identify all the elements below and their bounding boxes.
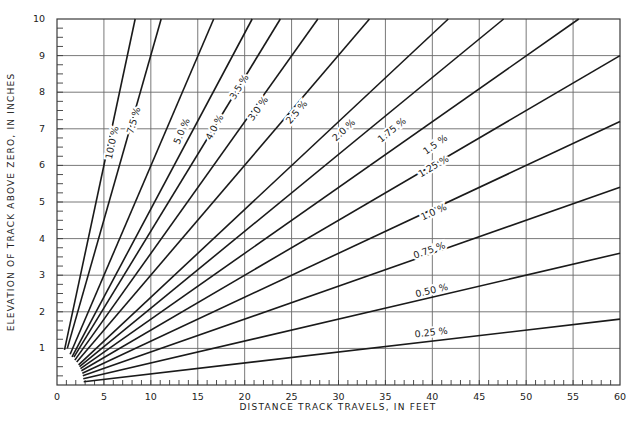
axis-ticks (57, 28, 611, 385)
y-tick-label: 2 (39, 306, 45, 317)
grade-line-label: 0.25 % (414, 325, 448, 340)
x-tick-label: 55 (567, 391, 579, 402)
grade-line-label: 0.75 % (412, 239, 447, 260)
grid-lines (57, 19, 620, 385)
grade-line (70, 19, 214, 354)
y-tick-label: 4 (39, 233, 45, 244)
grade-elevation-chart: 10.0 %7.5 %5.0 %4.0 %3.5 %3.0 %2.5 %2.0 … (0, 0, 642, 427)
grade-line (67, 19, 161, 348)
grade-lines (65, 19, 620, 382)
grade-line (83, 253, 620, 379)
grade-line-label: 2.0 % (330, 117, 357, 144)
grade-line-label: 1.0 % (419, 201, 448, 222)
y-tick-label: 8 (39, 86, 45, 97)
x-tick-label: 5 (101, 391, 107, 402)
x-axis-title: DISTANCE TRACK TRAVELS, IN FEET (239, 402, 436, 412)
grade-line (77, 19, 370, 362)
x-tick-label: 10 (145, 391, 157, 402)
y-tick-label: 9 (39, 50, 45, 61)
grade-line (74, 19, 280, 357)
y-tick-label: 7 (39, 123, 45, 134)
grade-line (82, 121, 620, 373)
grade-line-label: 3.5 % (227, 72, 251, 101)
x-tick-label: 50 (520, 391, 532, 402)
y-tick-label: 6 (39, 159, 45, 170)
grade-line-label: 1.5 % (421, 132, 450, 157)
grade-line-label: 10.0 % (103, 125, 121, 160)
y-tick-label: 3 (39, 269, 45, 280)
grade-line-label: 1.25 % (416, 153, 450, 179)
grade-line-label: 5.0 % (171, 116, 192, 145)
x-tick-label: 30 (332, 391, 344, 402)
x-tick-label: 35 (379, 391, 391, 402)
grade-line-label: 2.5 % (283, 98, 309, 126)
x-tick-label: 25 (286, 391, 298, 402)
x-tick-label: 60 (614, 391, 626, 402)
grade-line-label: 7.5 % (124, 106, 142, 135)
x-tick-label: 20 (239, 391, 251, 402)
x-tick-label: 45 (473, 391, 485, 402)
grade-line-label: 3.0 % (245, 94, 270, 122)
grade-line (80, 19, 578, 369)
x-tick-label: 40 (426, 391, 438, 402)
grade-line (84, 319, 620, 382)
x-tick-label: 0 (54, 391, 60, 402)
x-tick-label: 15 (192, 391, 204, 402)
y-axis-tick-labels: 12345678910 (33, 13, 45, 353)
grade-line (65, 19, 136, 350)
y-axis-title: ELEVATION OF TRACK ABOVE ZERO, IN INCHES (6, 73, 16, 332)
grade-line (75, 19, 318, 360)
grade-line-label: 0.50 % (414, 281, 449, 299)
grade-line (83, 187, 620, 375)
grade-line-label: 4.0 % (203, 113, 225, 142)
y-tick-label: 10 (33, 13, 45, 24)
x-axis-tick-labels: 051015202530354045505560 (54, 391, 626, 402)
y-tick-label: 5 (39, 196, 45, 207)
y-tick-label: 1 (39, 342, 45, 353)
